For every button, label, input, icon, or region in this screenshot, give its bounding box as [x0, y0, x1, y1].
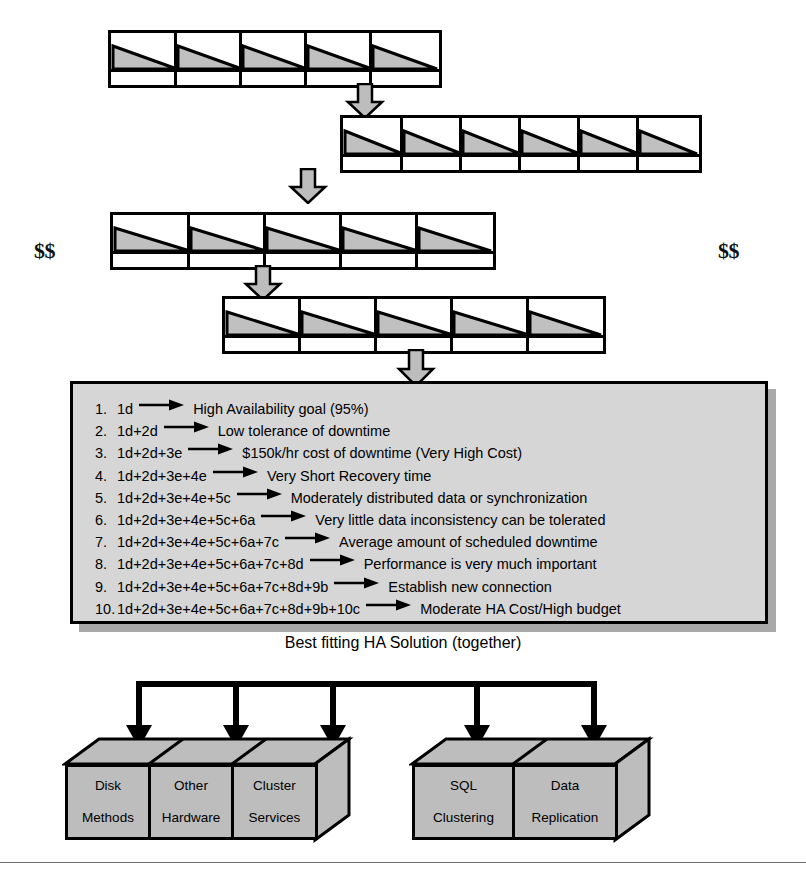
- right-arrow-icon: [133, 399, 191, 411]
- right-arrow-icon: [360, 599, 418, 611]
- result-item-number: 1.: [73, 398, 117, 420]
- right-arrow-icon: [182, 443, 240, 455]
- right-arrow-icon: [328, 577, 386, 589]
- connector-drop-5: [591, 681, 597, 729]
- solution-label-line2: Clustering: [433, 810, 494, 826]
- result-item-code: 1d+2d+3e+4e+5c+6a+7c+8d+9b: [117, 576, 328, 598]
- right-arrow-icon: [255, 510, 313, 522]
- funnel-bar-4: [222, 296, 606, 354]
- result-item-number: 3.: [73, 442, 117, 464]
- result-item-code: 1d: [117, 398, 133, 420]
- result-item-number: 6.: [73, 509, 117, 531]
- solution-label-line2: Replication: [532, 810, 599, 826]
- right-arrow-icon: [279, 532, 337, 544]
- solution-label-line2: Hardware: [162, 810, 221, 826]
- page-title: Best fitting HA Solution (together): [0, 634, 806, 652]
- right-arrow-icon: [231, 488, 289, 500]
- funnel-bar-2: [340, 115, 702, 173]
- result-item-code: 1d+2d+3e+4e+5c+6a+7c: [117, 531, 279, 553]
- result-item-code: 1d+2d+3e+4e+5c+6a: [117, 509, 255, 531]
- result-item-code: 1d+2d: [117, 420, 158, 442]
- result-item-text: Performance is very much important: [362, 553, 597, 575]
- solution-group-right: SQLClustering DataReplication: [409, 736, 659, 846]
- result-list-item: 1.1dHigh Availability goal (95%): [73, 398, 765, 420]
- result-item-text: Low tolerance of downtime: [216, 420, 391, 442]
- connector-bus-horizontal: [136, 681, 597, 687]
- result-item-number: 4.: [73, 465, 117, 487]
- result-item-text: Very little data inconsistency can be to…: [313, 509, 605, 531]
- diagram-canvas: $$ $$: [0, 0, 806, 869]
- result-item-code: 1d+2d+3e+4e: [117, 465, 207, 487]
- cost-label-left: $$: [34, 238, 55, 264]
- result-list-box: 1.1dHigh Availability goal (95%)2.1d+2dL…: [70, 381, 768, 624]
- solution-label-line1: Disk: [82, 778, 134, 794]
- solution-label-line2: Methods: [82, 810, 134, 826]
- result-list-item: 2.1d+2dLow tolerance of downtime: [73, 420, 765, 442]
- bar-trend-triangles: [343, 118, 705, 176]
- result-list-item: 8.1d+2d+3e+4e+5c+6a+7c+8dPerformance is …: [73, 553, 765, 575]
- result-item-number: 5.: [73, 487, 117, 509]
- result-list-item: 6.1d+2d+3e+4e+5c+6aVery little data inco…: [73, 509, 765, 531]
- result-item-text: Very Short Recovery time: [265, 465, 431, 487]
- result-item-text: Moderate HA Cost/High budget: [418, 598, 621, 620]
- solution-box-cluster-services[interactable]: ClusterServices: [231, 764, 318, 840]
- connector-drop-1: [136, 681, 142, 729]
- result-item-number: 8.: [73, 553, 117, 575]
- solution-box-other-hardware[interactable]: OtherHardware: [148, 764, 234, 840]
- solution-box-sql-clustering[interactable]: SQLClustering: [412, 764, 515, 840]
- flow-arrow-down-1: [345, 83, 385, 119]
- result-item-number: 10.: [73, 598, 117, 620]
- result-item-text: Moderately distributed data or synchroni…: [289, 487, 588, 509]
- result-list: 1.1dHigh Availability goal (95%)2.1d+2dL…: [73, 384, 765, 620]
- solution-label-line2: Services: [249, 810, 301, 826]
- result-item-text: Average amount of scheduled downtime: [337, 531, 597, 553]
- funnel-bar-1: [108, 30, 442, 88]
- result-item-code: 1d+2d+3e: [117, 442, 182, 464]
- page-bottom-rule: [0, 862, 806, 863]
- right-arrow-icon: [158, 421, 216, 433]
- solution-box-disk-methods[interactable]: DiskMethods: [65, 764, 151, 840]
- result-list-item: 3.1d+2d+3e$150k/hr cost of downtime (Ver…: [73, 442, 765, 464]
- bar-trend-triangles: [111, 33, 445, 91]
- solution-label-line1: SQL: [433, 778, 494, 794]
- result-item-text: High Availability goal (95%): [191, 398, 368, 420]
- result-item-number: 7.: [73, 531, 117, 553]
- right-arrow-icon: [207, 466, 265, 478]
- result-item-number: 9.: [73, 576, 117, 598]
- solution-label-line1: Other: [162, 778, 221, 794]
- solution-box-data-replication[interactable]: DataReplication: [512, 764, 618, 840]
- result-list-item: 10.1d+2d+3e+4e+5c+6a+7c+8d+9b+10cModerat…: [73, 598, 765, 620]
- connector-drop-4: [474, 681, 480, 729]
- result-list-item: 9.1d+2d+3e+4e+5c+6a+7c+8d+9bEstablish ne…: [73, 576, 765, 598]
- result-item-code: 1d+2d+3e+4e+5c+6a+7c+8d: [117, 553, 304, 575]
- result-item-number: 2.: [73, 420, 117, 442]
- flow-arrow-down-2: [288, 168, 328, 204]
- solution-group-left: DiskMethods OtherHardware ClusterService…: [62, 736, 362, 846]
- solution-label-line1: Cluster: [249, 778, 301, 794]
- result-list-item: 5.1d+2d+3e+4e+5cModerately distributed d…: [73, 487, 765, 509]
- result-item-code: 1d+2d+3e+4e+5c+6a+7c+8d+9b+10c: [117, 598, 360, 620]
- result-list-item: 7.1d+2d+3e+4e+5c+6a+7cAverage amount of …: [73, 531, 765, 553]
- cost-label-right: $$: [718, 238, 739, 264]
- result-item-text: $150k/hr cost of downtime (Very High Cos…: [240, 442, 522, 464]
- connector-drop-2: [233, 681, 239, 729]
- connector-drop-3: [330, 681, 336, 729]
- result-item-code: 1d+2d+3e+4e+5c: [117, 487, 231, 509]
- funnel-bar-3: [110, 212, 496, 270]
- solution-label-line1: Data: [532, 778, 599, 794]
- result-item-text: Establish new connection: [386, 576, 552, 598]
- right-arrow-icon: [304, 554, 362, 566]
- bar-trend-triangles: [113, 215, 499, 273]
- result-list-item: 4.1d+2d+3e+4eVery Short Recovery time: [73, 465, 765, 487]
